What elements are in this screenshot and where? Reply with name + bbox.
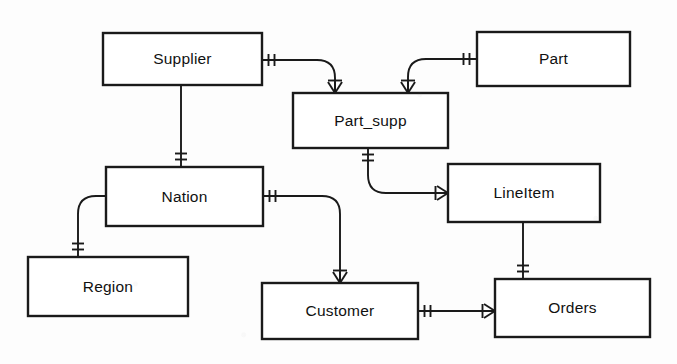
entity-customer[interactable]: Customer: [262, 283, 418, 339]
entity-nation[interactable]: Nation: [106, 167, 263, 226]
entity-lineitem[interactable]: LineItem: [448, 164, 600, 222]
entity-part_supp[interactable]: Part_supp: [293, 93, 448, 148]
relationship-line: [408, 59, 477, 93]
relationship-part-part_supp: [401, 53, 477, 93]
relationship-line: [262, 60, 335, 93]
entity-region[interactable]: Region: [28, 257, 188, 316]
er-diagram-canvas: SupplierPartPart_suppNationLineItemRegio…: [0, 0, 677, 364]
relationship-line: [263, 196, 340, 283]
entity-label: Part: [539, 50, 569, 67]
entity-label: Region: [83, 278, 133, 295]
cardinality-many-target: [333, 271, 347, 284]
entity-part[interactable]: Part: [477, 32, 630, 86]
entity-orders[interactable]: Orders: [495, 279, 650, 337]
relationship-part_supp-lineitem: [362, 148, 448, 200]
entity-supplier[interactable]: Supplier: [103, 33, 262, 85]
entity-label: Customer: [306, 302, 375, 319]
cardinality-many-target: [328, 81, 342, 94]
relationship-supplier-part_supp: [262, 54, 342, 93]
relationship-nation-customer: [263, 190, 347, 283]
cardinality-many-target: [483, 304, 496, 318]
entity-layer: SupplierPartPart_suppNationLineItemRegio…: [28, 32, 650, 339]
entity-label: Orders: [548, 299, 597, 316]
cardinality-many-target: [401, 81, 415, 94]
entity-label: LineItem: [493, 184, 554, 201]
relationship-supplier-nation: [174, 73, 188, 168]
relationship-customer-orders: [418, 304, 495, 318]
entity-label: Part_supp: [334, 112, 406, 129]
relationship-line: [78, 196, 106, 257]
cardinality-many-target: [436, 186, 449, 200]
er-diagram-svg: SupplierPartPart_suppNationLineItemRegio…: [0, 0, 677, 364]
entity-label: Nation: [161, 188, 207, 205]
entity-label: Supplier: [153, 50, 211, 67]
